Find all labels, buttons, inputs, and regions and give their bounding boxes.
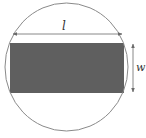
inscribed-rectangle [10, 43, 124, 93]
inscribed-rectangle-diagram: l w [0, 0, 146, 138]
width-label: w [136, 61, 146, 74]
length-label: l [62, 19, 66, 33]
